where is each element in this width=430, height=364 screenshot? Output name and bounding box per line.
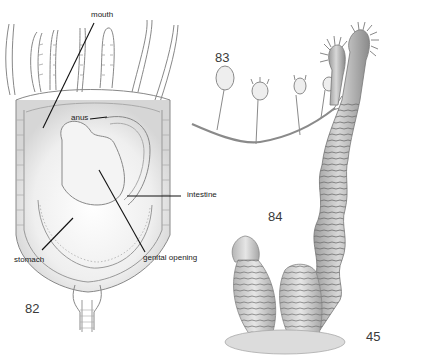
figure-83-colony [192,66,346,144]
lobe-left-upper [232,236,259,262]
label-anus: anus [71,114,88,122]
zooid-2 [252,82,268,100]
zooid-1 [216,66,234,90]
figure-number-84: 84 [268,210,282,223]
zooid-3 [294,78,306,94]
label-genital-opening: genital opening [143,254,197,262]
figure-number-82: 82 [25,302,39,315]
figure-84-stalks [225,22,379,354]
label-stomach: stomach [14,256,44,264]
figure-number-45: 45 [366,330,380,343]
label-intestine: intestine [187,191,217,199]
figure-82-section [6,20,178,332]
figure-number-83: 83 [215,51,229,64]
substrate-base [225,330,345,354]
label-mouth: mouth [91,11,113,19]
